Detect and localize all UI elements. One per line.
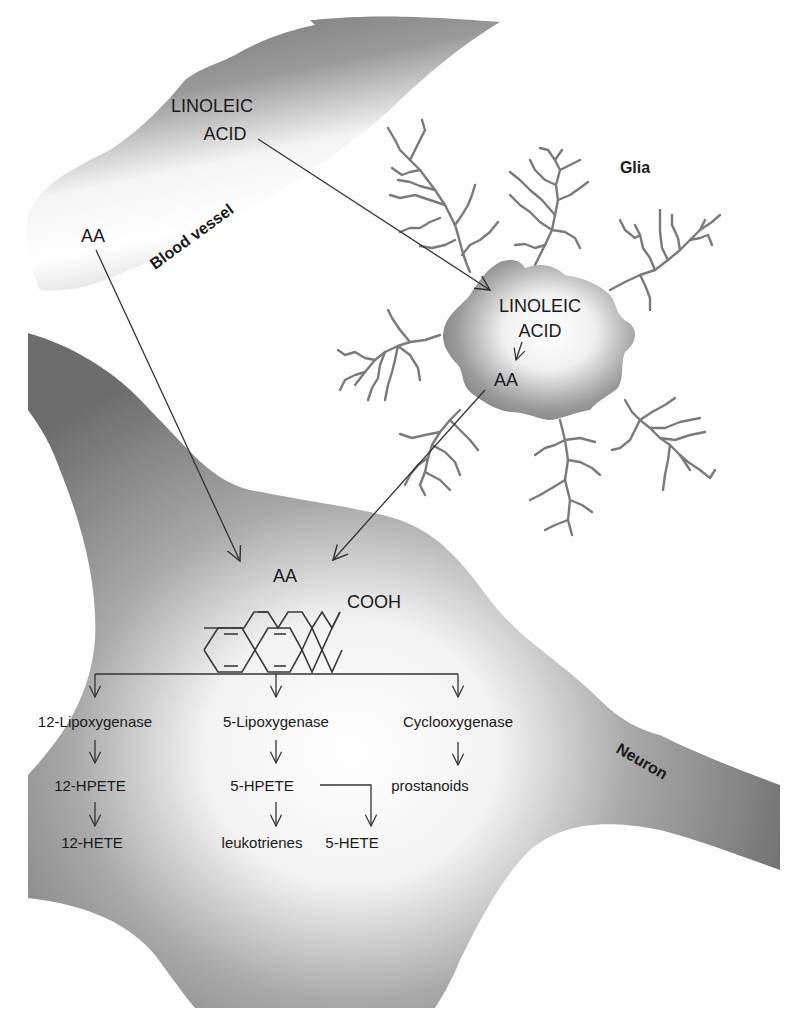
blood-vessel-shape <box>27 16 500 290</box>
enzyme-5-lipoxygenase: 5-Lipoxygenase <box>223 713 329 730</box>
glia-label: Glia <box>620 159 650 176</box>
diagram-canvas: LINOLEIC ACID AA Blood vessel Glia LINOL… <box>0 0 802 1028</box>
glia-aa-label: AA <box>494 370 518 390</box>
product-5-hete: 5-HETE <box>325 834 378 851</box>
enzyme-12-lipoxygenase: 12-Lipoxygenase <box>38 713 152 730</box>
vessel-aa-label: AA <box>81 226 105 246</box>
glia-linoleic-line2: ACID <box>518 321 561 341</box>
vessel-linoleic-line1: LINOLEIC <box>171 96 253 116</box>
product-leukotrienes: leukotrienes <box>222 834 303 851</box>
product-5-hpete: 5-HPETE <box>230 777 293 794</box>
product-12-hete: 12-HETE <box>61 834 123 851</box>
vessel-linoleic-line2: ACID <box>203 124 246 144</box>
cooh-label: COOH <box>347 592 401 612</box>
product-12-hpete: 12-HPETE <box>54 777 126 794</box>
neuron-aa-label: AA <box>273 566 297 586</box>
arachidonic-acid-pathway-diagram: LINOLEIC ACID AA Blood vessel Glia LINOL… <box>0 0 802 1028</box>
enzyme-cyclooxygenase: Cyclooxygenase <box>403 713 513 730</box>
product-prostanoids: prostanoids <box>391 777 469 794</box>
glia-linoleic-line1: LINOLEIC <box>499 296 581 316</box>
arrow-linoleic-to-glia <box>258 139 490 290</box>
